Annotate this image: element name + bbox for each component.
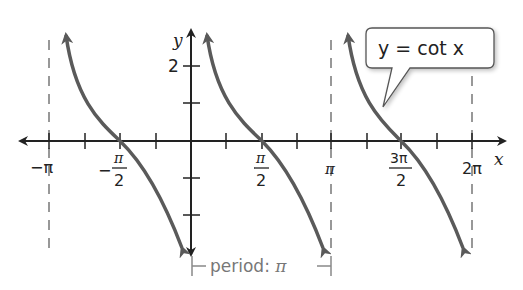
period-label: period: π <box>210 256 287 276</box>
svg-text:2: 2 <box>256 171 266 190</box>
x-label-3pi-over-2: 3π 2 <box>389 150 412 190</box>
cotangent-graph: y x 2 −π − π 2 π 2 π 3π 2 2π y = cot x p… <box>0 0 523 290</box>
svg-text:3π: 3π <box>390 150 408 166</box>
svg-text:π: π <box>255 150 266 166</box>
y-axis-label: y <box>172 30 183 50</box>
x-label-neg-pi: −π <box>30 158 53 177</box>
x-axis-label: x <box>494 149 504 169</box>
x-label-pi-over-2: π 2 <box>254 150 269 190</box>
x-label-neg-pi-over-2: − π 2 <box>98 150 127 190</box>
x-label-pi: π <box>324 160 336 178</box>
y-tick-label-2: 2 <box>168 56 179 76</box>
svg-text:2: 2 <box>114 171 124 190</box>
x-label-2pi: 2π <box>462 159 482 178</box>
svg-text:π: π <box>113 150 124 166</box>
callout-label: y = cot x <box>378 37 464 59</box>
svg-text:−: − <box>98 161 111 180</box>
svg-text:2: 2 <box>396 171 406 190</box>
asymptotes <box>49 40 472 250</box>
